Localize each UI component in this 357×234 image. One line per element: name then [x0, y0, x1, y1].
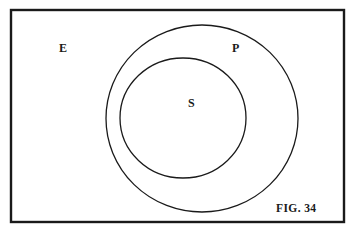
- set-label-p: P: [232, 42, 239, 54]
- set-p-circle: [106, 25, 298, 212]
- euler-diagram: [0, 0, 357, 234]
- universe-label-e: E: [59, 42, 67, 54]
- set-label-s: S: [188, 97, 195, 109]
- set-s-circle: [120, 58, 246, 178]
- figure-caption: FIG. 34: [276, 203, 317, 215]
